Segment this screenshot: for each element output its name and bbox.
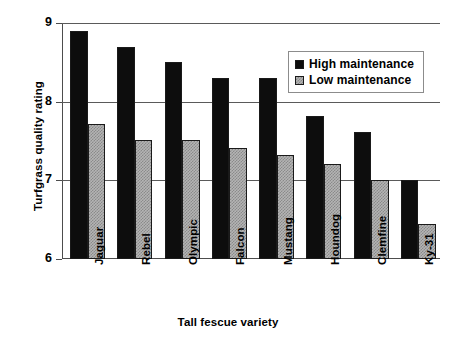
x-axis-tick-label: Rebel — [140, 233, 152, 265]
legend-item-high-maintenance: High maintenance — [295, 56, 414, 72]
bar-high-maintenance — [401, 180, 419, 259]
bar-high-maintenance — [259, 78, 277, 259]
x-axis-tick-label: Clemfine — [376, 216, 388, 265]
y-axis-title: Turfgrass quality rating — [32, 46, 44, 246]
x-axis-tick-label: Falcon — [234, 227, 246, 265]
bar-high-maintenance — [117, 47, 135, 259]
bar-group — [212, 23, 247, 259]
legend-item-low-maintenance: Low maintenance — [295, 72, 414, 88]
bar-high-maintenance — [354, 132, 372, 259]
bar-group — [70, 23, 105, 259]
legend-swatch-low-icon — [295, 76, 304, 85]
bar-chart: Turfgrass quality rating 6789 JaguarRebe… — [0, 0, 456, 342]
bar-high-maintenance — [165, 62, 183, 259]
x-axis-tick-label: Olympic — [187, 219, 199, 265]
y-axis-tick — [56, 259, 62, 260]
x-axis-tick-label: Mustang — [282, 217, 294, 265]
bar-group — [117, 23, 152, 259]
legend-swatch-high-icon — [295, 60, 304, 69]
legend-label-high: High maintenance — [309, 57, 414, 71]
y-axis-tick-label: 7 — [30, 173, 52, 186]
x-axis-tick-label: Houndog — [329, 214, 341, 265]
bar-high-maintenance — [212, 78, 230, 259]
y-axis-tick-label: 6 — [30, 252, 52, 265]
y-axis-tick-label: 9 — [30, 16, 52, 29]
legend-label-low: Low maintenance — [309, 73, 411, 87]
x-axis-tick-label: Ky-31 — [423, 233, 435, 265]
chart-legend: High maintenance Low maintenance — [288, 51, 424, 93]
bar-high-maintenance — [70, 31, 88, 259]
bar-high-maintenance — [306, 116, 324, 259]
y-axis-tick-label: 8 — [30, 95, 52, 108]
x-axis-tick-label: Jaguar — [93, 227, 105, 265]
x-axis-title: Tall fescue variety — [0, 316, 456, 328]
